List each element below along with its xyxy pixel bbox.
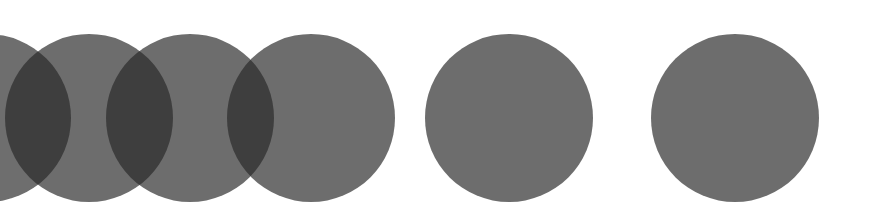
circles-diagram xyxy=(0,0,874,216)
circles-svg xyxy=(0,0,874,216)
circle-4 xyxy=(227,34,395,202)
circle-6 xyxy=(651,34,819,202)
circle-5 xyxy=(425,34,593,202)
